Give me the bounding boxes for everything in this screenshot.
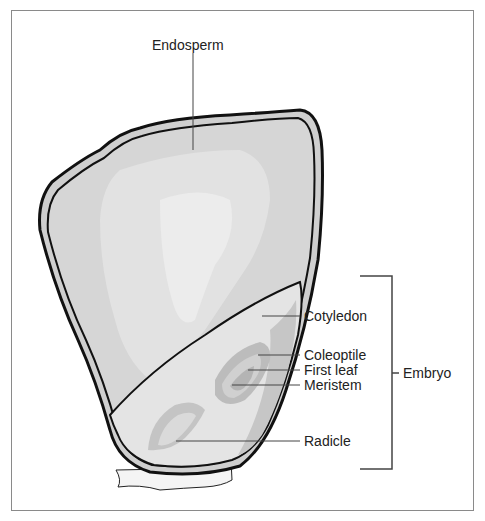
embryo-bracket [360,276,399,469]
kernel-illustration [0,0,485,521]
label-radicle: Radicle [304,434,351,448]
label-cotyledon: Cotyledon [304,309,367,323]
label-meristem: Meristem [304,378,362,392]
label-embryo: Embryo [403,366,451,380]
label-coleoptile: Coleoptile [304,348,366,362]
label-endosperm: Endosperm [152,38,224,52]
label-first-leaf: First leaf [304,363,358,377]
